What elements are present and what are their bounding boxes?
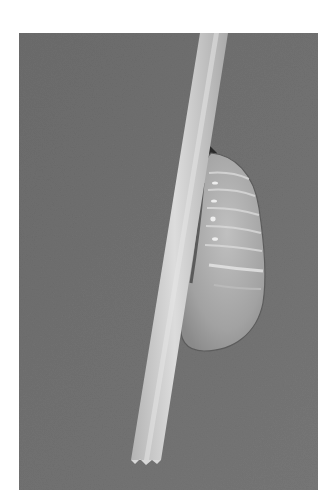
photo: Grayscale photograph of a pupa (chrysali…	[19, 33, 318, 490]
photo-canvas	[19, 33, 318, 490]
